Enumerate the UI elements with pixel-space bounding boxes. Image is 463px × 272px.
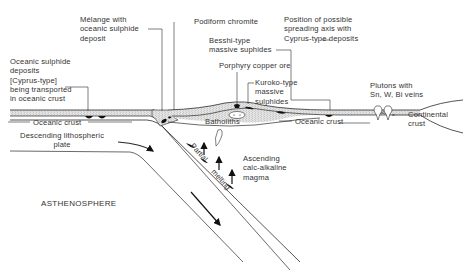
partial-melting-label: Partial melting <box>189 141 233 191</box>
label-continental-crust: Continental crust <box>408 110 448 129</box>
label-oceanic-sulphide: Oceanic sulphide deposits [Cyprus-type] … <box>10 57 72 103</box>
label-oceanic-crust-left: Oceanic crust <box>33 118 81 127</box>
label-podiform-chromite: Podiform chromite <box>194 17 258 26</box>
label-descending-plate: Descending lithospheric plate <box>20 131 104 150</box>
label-plutons: Plutons with Sn, W, Bi veins <box>370 81 423 100</box>
label-porphyry: Porphyry copper ore <box>219 61 291 70</box>
label-besshi: Besshi-type massive suphides <box>209 36 272 55</box>
label-oceanic-crust-right: Oceanic crust <box>295 117 343 126</box>
label-asthenosphere: ASTHENOSPHERE <box>41 199 116 208</box>
ascending-diapir <box>215 130 222 146</box>
svg-text:melting: melting <box>210 167 233 191</box>
label-ascending-magma: Ascending calc-alkaline magma <box>243 154 287 182</box>
sediment-layer-left <box>10 110 155 116</box>
svg-text:Partial: Partial <box>189 141 210 163</box>
label-kuroko: Kuroko-type massive sulphides <box>255 78 298 106</box>
label-melange: Mélange with oceanic sulphide deposit <box>80 15 139 43</box>
label-spreading-axis: Position of possible spreading axis with… <box>284 15 358 43</box>
label-batholiths: Batholiths <box>205 117 240 126</box>
slab-motion-arrow <box>191 192 220 225</box>
